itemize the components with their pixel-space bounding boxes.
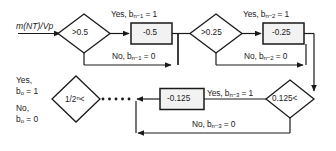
output-yes-line2: bo = 1 bbox=[16, 86, 38, 98]
output-no-line1: No, bbox=[16, 103, 38, 114]
branch-label-decision3-yes: Yes, bn−3 = 1 bbox=[207, 89, 253, 99]
decision-node-4-suffix: < bbox=[80, 95, 85, 104]
branch-label-decision2-no: No, bn−2 = 0 bbox=[244, 52, 287, 62]
branch-1-no-prefix: No, b bbox=[112, 51, 132, 61]
branch-3-yes-sub: n−3 bbox=[229, 92, 239, 98]
decision-node-4-base: 1/2 bbox=[65, 95, 76, 104]
branch-label-decision2-yes: Yes, bn−2 = 1 bbox=[243, 10, 289, 20]
branch-1-no-sub: n−1 bbox=[132, 55, 142, 61]
output-yes-line1: Yes, bbox=[16, 75, 38, 86]
decision-node-1-label: >0.5 bbox=[72, 29, 88, 38]
branch-label-decision1-no: No, bn−1 = 0 bbox=[112, 52, 155, 62]
branch-2-yes-prefix: Yes, b bbox=[243, 9, 265, 19]
branch-1-yes-prefix: Yes, b bbox=[111, 9, 133, 19]
output-label-no: No, bo = 0 bbox=[16, 103, 38, 125]
branch-3-yes-prefix: Yes, b bbox=[207, 88, 229, 98]
output-yes-sub: o bbox=[21, 90, 24, 96]
branch-1-yes-suffix: = 1 bbox=[146, 9, 158, 19]
operation-node-2-label: -0.25 bbox=[272, 29, 291, 38]
branch-2-yes-sub: n−2 bbox=[265, 13, 275, 19]
output-no-suffix: = 0 bbox=[26, 114, 38, 124]
branch-1-no-suffix: = 0 bbox=[144, 51, 156, 61]
output-no-sub: o bbox=[21, 118, 24, 124]
branch-3-yes-suffix: = 1 bbox=[242, 88, 254, 98]
decision-node-3-label: 0.125< bbox=[272, 95, 297, 104]
decision-node-4-label: 1/2n< bbox=[65, 95, 84, 105]
output-no-line2: bo = 0 bbox=[16, 114, 38, 126]
branch-3-no-prefix: No, b bbox=[192, 119, 212, 129]
branch-3-no-sub: n−3 bbox=[212, 123, 222, 129]
decision-node-2-label: >0.25 bbox=[201, 29, 222, 38]
operation-node-3-label: -0.125 bbox=[167, 95, 190, 104]
branch-1-yes-sub: n−1 bbox=[133, 13, 143, 19]
branch-label-decision3-no: No, bn−3 = 0 bbox=[192, 120, 235, 130]
branch-2-no-prefix: No, b bbox=[244, 51, 264, 61]
operation-node-1-label: -0.5 bbox=[143, 29, 157, 38]
input-signal-label: m(NT)/Vp bbox=[16, 22, 53, 31]
branch-2-yes-suffix: = 1 bbox=[278, 9, 290, 19]
branch-3-no-suffix: = 0 bbox=[224, 119, 236, 129]
branch-label-decision1-yes: Yes, bn−1 = 1 bbox=[111, 10, 157, 20]
flowchart-diagram: m(NT)/Vp >0.5 >0.25 0.125< 1/2n< -0.5 -0… bbox=[0, 0, 336, 151]
output-label-yes: Yes, bo = 1 bbox=[16, 75, 38, 97]
branch-2-no-suffix: = 0 bbox=[276, 51, 288, 61]
dotted-continuation bbox=[102, 98, 131, 101]
branch-2-no-sub: n−2 bbox=[264, 55, 274, 61]
output-yes-suffix: = 1 bbox=[26, 86, 38, 96]
